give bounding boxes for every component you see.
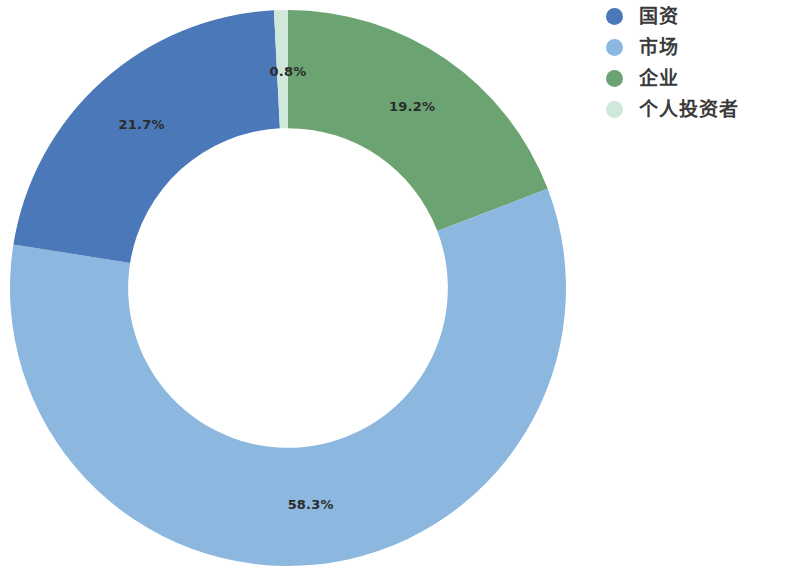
- slice-value-label: 21.7%: [119, 117, 165, 132]
- legend-item-label: 个人投资者: [639, 100, 739, 119]
- legend-item-label: 市场: [639, 38, 679, 57]
- legend-item-3[interactable]: 个人投资者: [606, 101, 789, 118]
- donut-chart: 19.2%58.3%21.7% 0.8% 国资 市场 企业 个人投资者: [0, 0, 789, 584]
- legend-swatch-icon: [606, 39, 623, 56]
- legend-item-label: 国资: [639, 7, 679, 26]
- slice-value-label: 19.2%: [389, 99, 435, 114]
- donut-slice[interactable]: [288, 10, 548, 231]
- legend-item-1[interactable]: 市场: [606, 39, 789, 56]
- slice-label-annotation: 0.8%: [270, 64, 307, 79]
- donut-svg: 19.2%58.3%21.7% 0.8%: [0, 0, 600, 584]
- legend-item-0[interactable]: 国资: [606, 8, 789, 25]
- legend-item-2[interactable]: 企业: [606, 70, 789, 87]
- legend-swatch-icon: [606, 70, 623, 87]
- slice-value-label: 58.3%: [288, 497, 334, 512]
- legend-item-label: 企业: [639, 69, 679, 88]
- donut-slices: [10, 10, 566, 566]
- donut-slice[interactable]: [13, 10, 279, 263]
- legend-swatch-icon: [606, 8, 623, 25]
- chart-plot-area: 19.2%58.3%21.7% 0.8%: [0, 0, 600, 584]
- chart-legend: 国资 市场 企业 个人投资者: [606, 8, 789, 118]
- legend-swatch-icon: [606, 101, 623, 118]
